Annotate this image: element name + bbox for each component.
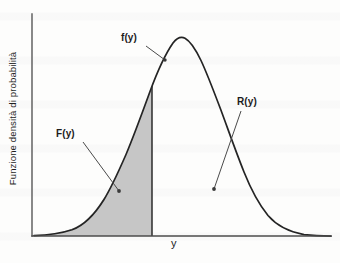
leader-line-Fy [83, 142, 119, 191]
density-curve-fy [34, 37, 331, 236]
y-axis-label-text: Funzione densità di probabilità [8, 51, 19, 185]
leader-head-Ry [212, 187, 216, 191]
figure-container: Funzione densità di probabilità f(y) F(y… [0, 0, 340, 263]
x-axis-label: y [171, 238, 177, 249]
annotation-label-Ry: R(y) [237, 97, 257, 107]
y-axis-label: Funzione densità di probabilità [2, 0, 24, 236]
annotation-label-Fy: F(y) [56, 129, 75, 139]
annotation-label-fy: f(y) [121, 33, 137, 43]
density-plot-svg [0, 0, 340, 263]
leader-head-fy [163, 58, 166, 61]
leader-head-Fy [117, 189, 121, 193]
leader-line-Ry [214, 111, 241, 189]
leader-line-fy [146, 46, 165, 60]
